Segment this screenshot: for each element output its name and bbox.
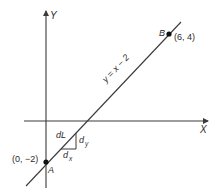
- dl-label: dL: [56, 130, 66, 140]
- diagram-canvas: Y X y = x − 2 B (6, 4) (0, −2) A dL d y …: [0, 0, 218, 196]
- svg-text:y: y: [84, 140, 89, 148]
- x-axis-label: X: [199, 124, 207, 135]
- point-a-coords: (0, −2): [12, 154, 38, 164]
- point-b-coords: (6, 4): [174, 32, 195, 42]
- coordinate-plot: Y X y = x − 2 B (6, 4) (0, −2) A dL d y …: [0, 0, 218, 196]
- point-a-marker: [43, 159, 48, 164]
- point-b-label: B: [159, 28, 165, 38]
- line-y-equals-x-minus-2: [26, 22, 181, 186]
- y-axis-label: Y: [50, 10, 58, 21]
- point-b-marker: [166, 31, 171, 36]
- point-a-label: A: [47, 165, 54, 175]
- dy-label: d y: [79, 135, 89, 148]
- svg-text:x: x: [68, 155, 73, 162]
- dx-label: d x: [63, 150, 73, 162]
